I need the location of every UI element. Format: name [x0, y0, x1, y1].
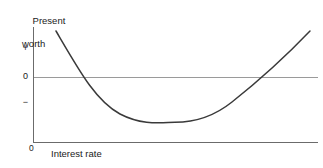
y-tick-zero: 0 [14, 71, 28, 81]
x-axis-label: Interest rate [51, 148, 102, 159]
present-worth-curve [56, 31, 310, 123]
y-axis-label: Present worth [22, 3, 65, 72]
y-axis-label-line1: Present [33, 15, 66, 26]
origin-label: 0 [29, 143, 34, 153]
y-tick-negative: − [14, 97, 28, 107]
present-worth-chart: Present worth + 0 − 0 Interest rate [0, 0, 323, 168]
y-axis-label-line2: worth [22, 38, 65, 50]
y-tick-positive: + [14, 43, 28, 53]
